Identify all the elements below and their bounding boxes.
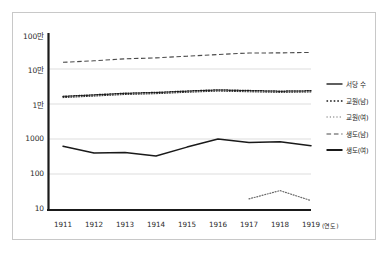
chart-figure: 100만 10만 1만 1000 100 10 1911 1912 1913 1…: [0, 0, 390, 255]
x-tick-label-1911: 1911: [48, 220, 78, 229]
legend-swatch-solid-heavy-icon: [326, 145, 343, 155]
y-tick-label-100: 100: [14, 169, 44, 178]
x-axis-unit-label: (연도): [322, 221, 339, 230]
legend-label-gyowon-nam: 교원(남): [346, 96, 368, 106]
legend-label-seodang-su: 서당 수: [346, 79, 366, 89]
legend-label-saengdo-nam: 생도(남): [346, 129, 368, 139]
chart-legend: 서당 수 교원(남) 교원(여) 생도(: [326, 76, 384, 159]
x-tick-label-1918: 1918: [265, 220, 295, 229]
y-tick-label-1man: 1만: [14, 99, 44, 110]
x-tick-label-1915: 1915: [172, 220, 202, 229]
y-tick-label-1000: 1000: [14, 134, 44, 143]
legend-label-saengdo-yeo: 생도(여): [346, 145, 368, 155]
legend-item-gyowon-yeo[interactable]: 교원(여): [326, 109, 384, 126]
series-line-gyowon-yeo: [249, 191, 311, 201]
x-tick-label-1912: 1912: [79, 220, 109, 229]
x-tick-label-1914: 1914: [141, 220, 171, 229]
series-line-saengdo-yeo: [63, 139, 311, 156]
legend-swatch-dotted-thick-icon: [326, 96, 343, 106]
legend-swatch-solid-icon: [326, 79, 343, 89]
y-tick-label-10man: 10만: [14, 64, 44, 75]
legend-item-saengdo-nam[interactable]: 생도(남): [326, 126, 384, 143]
legend-label-gyowon-yeo: 교원(여): [346, 112, 368, 122]
legend-swatch-dashed-icon: [326, 129, 343, 139]
legend-item-gyowon-nam[interactable]: 교원(남): [326, 93, 384, 110]
series-line-saengdo-nam: [63, 52, 311, 62]
gridlines: [48, 35, 311, 174]
legend-item-seodang-su[interactable]: 서당 수: [326, 76, 384, 93]
x-tick-label-1913: 1913: [110, 220, 140, 229]
y-tick-label-10: 10: [14, 204, 44, 213]
legend-swatch-dotted-fine-icon: [326, 112, 343, 122]
y-tick-label-100man: 100만: [14, 30, 44, 41]
legend-item-saengdo-yeo[interactable]: 생도(여): [326, 142, 384, 159]
x-tick-label-1917: 1917: [234, 220, 264, 229]
x-tick-label-1916: 1916: [203, 220, 233, 229]
